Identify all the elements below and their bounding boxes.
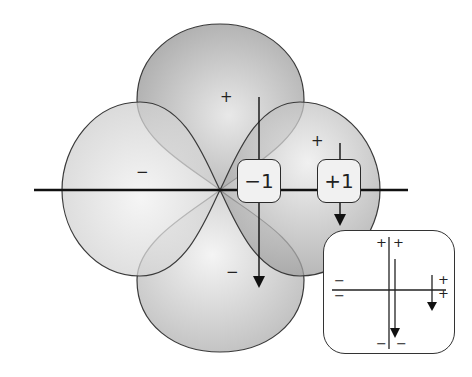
sign-left-lobe: − — [136, 165, 149, 180]
inset-sign-top-right: + — [393, 236, 404, 249]
inset-diagram: + + − − + + − − — [323, 230, 455, 354]
box-minus-one-label: −1 — [244, 169, 273, 193]
inset-sign-bottom-right: − — [396, 337, 407, 350]
box-plus-one-label: +1 — [324, 169, 353, 193]
box-minus-one: −1 — [237, 159, 281, 203]
diagram-canvas: + − + − −1 +1 + + − − + + − − — [0, 0, 472, 377]
sign-bottom-lobe: − — [226, 265, 239, 280]
inset-sign-left-bottom: − — [334, 289, 345, 302]
inset-sign-left-top: − — [334, 274, 345, 287]
inset-sign-right-top: + — [438, 273, 449, 286]
inset-sign-bottom-left: − — [376, 337, 387, 350]
inset-sign-right-bottom: + — [438, 287, 449, 300]
inset-sign-top-left: + — [376, 236, 387, 249]
sign-top-lobe: + — [220, 90, 233, 105]
box-plus-one: +1 — [317, 159, 361, 203]
sign-right-lobe: + — [311, 134, 324, 149]
